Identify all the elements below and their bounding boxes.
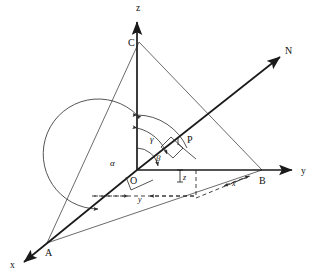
projection-dashes [92,170,250,198]
axis-label-x: x [10,260,15,270]
line-c-b [139,42,262,170]
axes-group [24,22,292,262]
line-a-b [47,170,262,243]
point-label-c: C [128,37,135,48]
angle-label-alpha: α [110,158,115,168]
point-label-p: P [187,134,193,145]
angle-label-beta: β [155,153,161,163]
line-c-a [47,42,139,243]
point-label-b: B [259,175,266,186]
labels-group: x y z O A B C P N α β γ x y z [10,3,306,270]
component-label-y: y [137,195,142,204]
component-label-x: x [231,179,236,188]
component-label-z: z [182,173,187,182]
arc-alpha [43,99,137,209]
point-label-a: A [45,247,53,258]
triangle-abc [47,42,262,243]
arc-beta-inner [137,148,158,166]
segment-p-foot [178,144,196,159]
dash-x-arrow-right [226,176,249,185]
angle-label-gamma: γ [150,134,154,144]
axis-label-y: y [301,166,306,176]
axis-x [24,170,137,262]
angle-arcs [43,99,187,209]
diagram-canvas: x y z O A B C P N α β γ x y z [0,0,316,276]
point-label-n: N [285,45,292,56]
dash-x-component [196,176,250,198]
axis-label-z: z [136,3,140,13]
coordinate-system-figure: x y z O A B C P N α β γ x y z [0,0,316,276]
point-label-o: O [130,175,137,186]
arc-beta-outer [137,115,187,148]
